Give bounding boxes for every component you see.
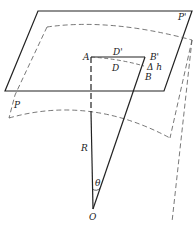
- label-p-prime: P': [177, 12, 187, 22]
- label-theta: θ: [95, 178, 101, 188]
- line-b-prime-to-o: [93, 57, 145, 209]
- label-d: D: [111, 63, 119, 73]
- tangent-plane-p-prime: [5, 11, 192, 91]
- label-o: O: [89, 212, 97, 222]
- radius-r: [91, 112, 93, 209]
- label-a: A: [82, 52, 90, 62]
- label-delta-h: Δ h: [146, 62, 162, 72]
- geodesy-diagram: P' P A D' D B' Δ h B R θ O: [0, 0, 193, 227]
- label-b-prime: B': [149, 52, 159, 62]
- label-r: R: [80, 143, 88, 153]
- theta-arc: [92, 188, 100, 190]
- label-d-prime: D': [112, 47, 123, 57]
- label-b: B: [144, 72, 152, 82]
- curved-surface-p-right: [170, 40, 192, 138]
- curved-surface-p-bottom: [9, 110, 170, 138]
- label-p: P: [13, 100, 21, 110]
